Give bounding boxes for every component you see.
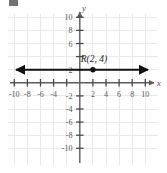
y-axis-label: y xyxy=(81,3,86,13)
x-tick-label: -6 xyxy=(37,90,44,99)
x-tick-label: -4 xyxy=(50,90,57,99)
x-tick-label: -10 xyxy=(9,90,20,99)
y-tick-label: 8 xyxy=(69,26,73,35)
graph-canvas: -10 -8 -6 -4 2 4 6 8 10 10 8 6 2 -2 -4 -… xyxy=(0,0,167,173)
x-tick-label: 10 xyxy=(141,90,149,99)
y-tick-label: 6 xyxy=(69,40,73,49)
y-tick-label: -8 xyxy=(66,131,73,140)
data-point-R xyxy=(90,67,95,72)
y-tick-label: 10 xyxy=(65,13,73,22)
x-tick-label: -8 xyxy=(24,90,31,99)
data-point-label-R: R(2, 4) xyxy=(80,54,107,65)
x-tick-label: 4 xyxy=(104,90,108,99)
y-tick-label: -6 xyxy=(66,118,73,127)
x-axis-label: x xyxy=(156,78,161,88)
y-tick-label: -4 xyxy=(66,105,73,114)
y-tick-label: -10 xyxy=(62,144,73,153)
coordinate-plane-figure: -10 -8 -6 -4 2 4 6 8 10 10 8 6 2 -2 -4 -… xyxy=(0,0,167,173)
x-tick-label: 6 xyxy=(117,90,121,99)
y-tick-label: -2 xyxy=(66,92,73,101)
x-tick-label: 2 xyxy=(91,90,95,99)
x-tick-label: 8 xyxy=(130,90,134,99)
